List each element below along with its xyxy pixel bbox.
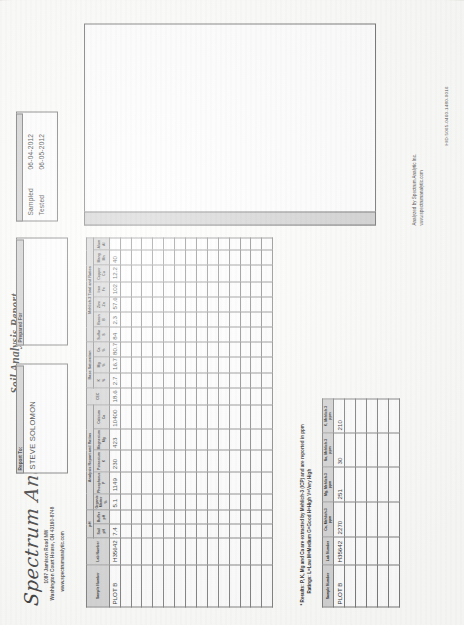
cell-na_m3 <box>388 433 399 467</box>
cell-soil_ph <box>251 524 262 538</box>
report-to-header: Report To: <box>16 365 24 473</box>
cell-mg_pct <box>131 357 142 372</box>
cell-alum <box>207 238 218 250</box>
cell-iron <box>153 281 164 296</box>
cell-zinc <box>229 296 240 311</box>
cell-boron <box>186 311 197 326</box>
cell-k_m3 <box>377 399 388 433</box>
cell-potassium <box>142 450 153 471</box>
cell-phosphorus <box>153 471 164 493</box>
cell-organic_matter <box>175 493 186 509</box>
th2-mg-m3: Mg, Mehlich-3ppm <box>323 467 334 502</box>
cell-k_pct <box>196 372 207 387</box>
cell-k_pct <box>131 372 142 387</box>
cell-copper <box>240 265 251 281</box>
cell-copper <box>131 265 142 281</box>
cell-magnesium: 423 <box>109 429 120 450</box>
cell-lab_number <box>345 537 356 565</box>
cell-organic_matter <box>120 493 131 509</box>
th-group-base-saturation: Base Saturation <box>87 342 94 387</box>
cell-ca_pct <box>240 342 251 357</box>
cell-mg_pct <box>120 357 131 372</box>
cell-cec <box>175 387 186 404</box>
cell-na_m3: 30 <box>334 433 345 467</box>
cell-sample_number <box>131 564 142 606</box>
table-row <box>356 399 367 607</box>
cell-sample_number: PLOT B <box>109 564 120 606</box>
cell-lab_number <box>229 538 240 564</box>
cell-iron <box>262 281 273 296</box>
cell-lab_number: H35642 <box>109 538 120 564</box>
company-address-line1: 1087 Jamison Road NW <box>44 529 49 583</box>
table-row <box>388 399 399 607</box>
table-row <box>164 238 175 607</box>
cell-organic_matter <box>142 493 153 509</box>
cell-soil_ph <box>142 524 153 538</box>
cell-potassium <box>164 450 175 471</box>
table-row <box>186 238 197 607</box>
sampled-label: Sampled <box>27 188 34 215</box>
cell-manganese <box>186 250 197 265</box>
cell-ca_pct <box>142 342 153 357</box>
cell-calcium <box>153 404 164 428</box>
cell-iron <box>142 281 153 296</box>
cell-mg_pct <box>207 357 218 372</box>
th-soil-ph: SoilpH <box>94 524 110 538</box>
cell-na_m3 <box>345 433 356 467</box>
cell-potassium <box>251 450 262 471</box>
cell-lab_number <box>120 538 131 564</box>
th-magnesium: MagnesiumMg <box>94 429 110 450</box>
cell-calcium <box>229 404 240 428</box>
th2-lab-number: Lab Number <box>323 537 334 565</box>
cell-copper <box>153 265 164 281</box>
cell-manganese <box>251 250 262 265</box>
cell-soil_ph <box>186 524 197 538</box>
sec-table-header-row: Sample Number Lab Number Ca, Mehlich-3pp… <box>323 399 334 607</box>
tested-label: Tested <box>38 194 45 215</box>
table-row <box>377 399 388 607</box>
cell-manganese <box>196 250 207 265</box>
cell-cec <box>153 387 164 404</box>
cell-calcium <box>175 404 186 428</box>
cell-iron <box>175 281 186 296</box>
cell-sample_number <box>207 564 218 606</box>
cell-zinc <box>175 296 186 311</box>
table-row <box>262 238 273 607</box>
cell-mg_pct <box>164 357 175 372</box>
cell-copper <box>229 265 240 281</box>
cell-sample_number <box>345 565 356 607</box>
cell-lab_number <box>356 537 367 565</box>
cell-potassium <box>120 450 131 471</box>
cell-lab_number <box>367 537 378 565</box>
th-alum: AlumAl <box>94 238 110 250</box>
cell-copper <box>207 265 218 281</box>
table-row <box>367 399 378 607</box>
cell-phosphorus <box>262 471 273 493</box>
cell-copper: 12.2 <box>109 265 120 281</box>
cell-k_pct <box>218 372 229 387</box>
cell-soil_ph: 7.4 <box>109 524 120 538</box>
table-row: PLOT BH35642227025130210 <box>334 399 345 607</box>
cell-boron <box>131 311 142 326</box>
cell-cec <box>120 387 131 404</box>
cell-iron <box>251 281 262 296</box>
cell-lab_number <box>175 538 186 564</box>
cell-phosphorus <box>164 471 175 493</box>
cell-phosphorus <box>120 471 131 493</box>
cell-magnesium <box>207 429 218 450</box>
cell-potassium <box>175 450 186 471</box>
cell-iron <box>218 281 229 296</box>
cell-copper <box>218 265 229 281</box>
cell-boron <box>229 311 240 326</box>
th-group-mehlich3: Mehlich-3 Total and Ratios <box>87 238 94 342</box>
cell-lab_number <box>131 538 142 564</box>
cell-buffer_ph <box>131 510 142 524</box>
table-row <box>240 238 251 607</box>
report-to-name: STEVE SOLOMON <box>28 401 37 469</box>
cell-mg_m3 <box>345 467 356 502</box>
cell-boron <box>218 311 229 326</box>
cell-sample_number <box>186 564 197 606</box>
cell-manganese <box>229 250 240 265</box>
cell-potassium <box>240 450 251 471</box>
cell-calcium <box>240 404 251 428</box>
